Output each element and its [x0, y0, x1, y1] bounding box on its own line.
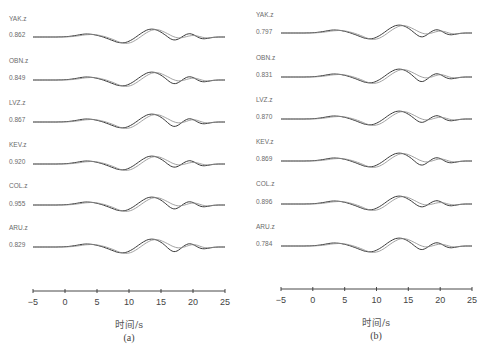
station-name: YAK.z	[256, 11, 274, 18]
waveform-trace	[281, 25, 472, 39]
x-tick-label: −5	[28, 297, 38, 307]
waveform-trace	[33, 114, 225, 128]
correlation-value: 0.862	[9, 31, 25, 38]
x-tick-label: −5	[276, 295, 286, 305]
correlation-value: 0.896	[256, 198, 272, 205]
panel-b: YAK.z 0.797 OBN.z 0.831 LVZ.z 0.870 KEV.…	[244, 0, 488, 351]
waveform-trace	[33, 72, 225, 86]
station-name: LVZ.z	[9, 99, 26, 106]
correlation-value: 0.955	[9, 200, 25, 207]
correlation-value: 0.784	[256, 240, 272, 247]
x-tick-label: 10	[124, 297, 134, 307]
waveform-trace	[281, 69, 472, 83]
correlation-value: 0.870	[256, 113, 272, 120]
correlation-value: 0.920	[9, 158, 25, 165]
correlation-value: 0.869	[256, 155, 272, 162]
correlation-value: 0.831	[256, 71, 272, 78]
x-tick-label: 5	[94, 297, 99, 307]
correlation-value: 0.797	[256, 28, 272, 35]
traces-b	[281, 25, 472, 252]
x-tick-label: 15	[156, 297, 166, 307]
panel-caption: (a)	[123, 332, 134, 343]
x-tick-label: 0	[310, 295, 315, 305]
panel-a: YAK.z 0.862 OBN.z 0.849 LVZ.z 0.867 KEV.…	[0, 0, 244, 351]
station-name: LVZ.z	[256, 96, 273, 103]
x-tick-label: 0	[62, 297, 67, 307]
x-tick-label: 20	[188, 297, 198, 307]
station-name: ARU.z	[256, 223, 275, 230]
station-name: OBN.z	[9, 57, 28, 64]
x-tick-label: 25	[467, 295, 477, 305]
waveform-trace	[33, 197, 225, 211]
station-name: KEV.z	[9, 141, 26, 148]
station-name: OBN.z	[256, 54, 275, 61]
correlation-value: 0.829	[9, 241, 25, 248]
station-name: KEV.z	[256, 138, 273, 145]
x-tick-label: 20	[435, 295, 445, 305]
x-axis-a	[33, 289, 225, 293]
correlation-value: 0.849	[9, 74, 25, 81]
x-axis-label: 时间/s	[115, 317, 143, 331]
x-tick-label: 10	[371, 295, 381, 305]
station-name: YAK.z	[9, 15, 27, 22]
station-name: COL.z	[9, 182, 27, 189]
x-axis-label: 时间/s	[362, 315, 390, 329]
waveform-trace	[281, 153, 472, 167]
x-tick-label: 25	[220, 297, 230, 307]
x-tick-label: 5	[342, 295, 347, 305]
panel-caption: (b)	[370, 330, 382, 341]
waveform-trace	[33, 239, 225, 253]
station-name: ARU.z	[9, 224, 28, 231]
correlation-value: 0.867	[9, 116, 25, 123]
station-name: COL.z	[256, 180, 274, 187]
traces-a	[33, 29, 225, 253]
x-tick-label: 15	[403, 295, 413, 305]
waveform-trace	[281, 238, 472, 252]
x-axis-b	[281, 287, 472, 291]
